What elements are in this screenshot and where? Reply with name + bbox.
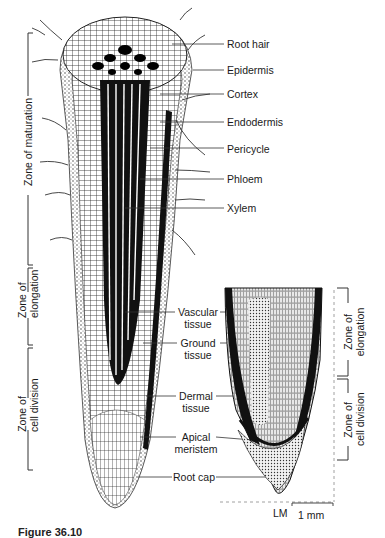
zone-cell-division-right-line1: Zone of — [342, 394, 354, 446]
figure-caption: Figure 36.10 — [18, 526, 82, 538]
zone-cell-division-right-line2: cell division — [354, 394, 366, 446]
zone-elongation-right: Zone of elongation — [342, 304, 366, 360]
label-phloem: Phloem — [227, 173, 263, 185]
zone-elongation-left-line2: elongation — [28, 290, 40, 318]
label-ground-tissue: Ground tissue — [174, 337, 222, 361]
label-apical-line2: meristem — [172, 443, 220, 455]
label-dermal-tissue: Dermal tissue — [174, 390, 218, 414]
label-vascular-line2: tissue — [174, 318, 222, 330]
zone-maturation-left: Zone of maturation — [22, 94, 34, 190]
micrograph-inset — [220, 288, 334, 506]
label-root-hair: Root hair — [227, 38, 270, 50]
label-apical-line1: Apical — [172, 431, 220, 443]
label-ground-line2: tissue — [174, 349, 222, 361]
zone-cell-division-left-line2: cell division — [28, 396, 40, 432]
label-vascular-tissue: Vascular tissue — [174, 306, 222, 330]
label-dermal-line2: tissue — [174, 402, 218, 414]
label-ground-line1: Ground — [174, 337, 222, 349]
scale-bar-label: 1 mm — [298, 509, 324, 521]
label-vascular-line1: Vascular — [174, 306, 222, 318]
label-epidermis: Epidermis — [227, 64, 274, 76]
micrograph-type-label: LM — [273, 507, 288, 519]
label-pericycle: Pericycle — [227, 143, 270, 155]
label-endodermis: Endodermis — [227, 116, 283, 128]
zone-cell-division-left-line1: Zone of — [16, 396, 28, 432]
label-dermal-line1: Dermal — [174, 390, 218, 402]
label-root-cap: Root cap — [173, 471, 215, 483]
zone-elongation-left: Zone of elongation — [16, 290, 40, 318]
zone-cell-division-left: Zone of cell division — [16, 396, 40, 432]
zone-elongation-right-line2: elongation — [354, 304, 366, 360]
zone-cell-division-right: Zone of cell division — [342, 394, 366, 446]
label-xylem: Xylem — [227, 202, 256, 214]
label-apical-meristem: Apical meristem — [172, 431, 220, 455]
label-cortex: Cortex — [227, 88, 258, 100]
zone-elongation-left-line1: Zone of — [16, 290, 28, 318]
scale-bar — [292, 503, 333, 506]
zone-elongation-right-line1: Zone of — [342, 304, 354, 360]
